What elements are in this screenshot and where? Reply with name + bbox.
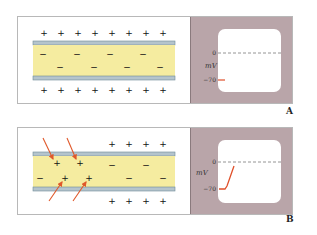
tick-zero-a: 0 xyxy=(212,49,216,56)
panel-b: ++++ ++++ ++ ++ − −− −− 0 −70 mV xyxy=(17,127,293,215)
tick-rest-a: −70 xyxy=(203,76,216,83)
svg-text:+: + xyxy=(159,196,167,206)
tick-rest-b: −70 xyxy=(203,185,216,192)
svg-text:+: + xyxy=(57,28,65,38)
axon-diagram-a: ++++ ++++ ++++ ++++ −−−− −−−− xyxy=(18,17,192,105)
oscilloscope-a: 0 −70 mV xyxy=(190,17,292,103)
svg-text:−: − xyxy=(159,173,167,183)
panel-a: ++++ ++++ ++++ ++++ −−−− −−−− 0 −70 mV xyxy=(17,16,293,104)
svg-text:+: + xyxy=(40,85,48,95)
svg-text:−: − xyxy=(73,49,81,59)
svg-text:−: − xyxy=(90,62,98,72)
svg-text:+: + xyxy=(108,196,116,206)
svg-text:+: + xyxy=(142,28,150,38)
svg-text:+: + xyxy=(74,28,82,38)
oscilloscope-b: 0 −70 mV xyxy=(190,128,292,214)
svg-text:−: − xyxy=(139,49,147,59)
svg-text:−: − xyxy=(123,62,131,72)
svg-text:+: + xyxy=(108,28,116,38)
svg-text:−: − xyxy=(125,173,133,183)
panel-label-a: A xyxy=(286,106,293,116)
tick-zero-b: 0 xyxy=(212,158,216,165)
svg-text:+: + xyxy=(85,173,93,183)
svg-text:+: + xyxy=(125,196,133,206)
panel-label-b: B xyxy=(286,214,294,224)
svg-text:+: + xyxy=(125,139,133,149)
svg-text:+: + xyxy=(142,196,150,206)
svg-text:−: − xyxy=(39,49,47,59)
svg-text:−: − xyxy=(36,173,44,183)
svg-text:+: + xyxy=(91,85,99,95)
svg-text:+: + xyxy=(40,28,48,38)
axon-diagram-b: ++++ ++++ ++ ++ − −− −− xyxy=(18,128,192,216)
svg-text:+: + xyxy=(142,139,150,149)
svg-text:+: + xyxy=(53,158,61,168)
svg-text:−: − xyxy=(56,62,64,72)
svg-text:−: − xyxy=(108,160,116,170)
svg-text:+: + xyxy=(108,139,116,149)
svg-text:+: + xyxy=(125,28,133,38)
svg-text:+: + xyxy=(91,28,99,38)
svg-text:+: + xyxy=(108,85,116,95)
axis-label-a: mV xyxy=(205,62,218,70)
svg-text:+: + xyxy=(74,85,82,95)
svg-text:+: + xyxy=(159,28,167,38)
axis-label-b: mV xyxy=(196,169,209,177)
svg-text:+: + xyxy=(159,85,167,95)
svg-text:+: + xyxy=(159,139,167,149)
svg-text:+: + xyxy=(142,85,150,95)
svg-text:+: + xyxy=(61,173,69,183)
svg-text:+: + xyxy=(76,158,84,168)
svg-text:+: + xyxy=(57,85,65,95)
svg-text:−: − xyxy=(106,49,114,59)
svg-text:−: − xyxy=(156,62,164,72)
svg-text:+: + xyxy=(125,85,133,95)
svg-text:−: − xyxy=(142,160,150,170)
